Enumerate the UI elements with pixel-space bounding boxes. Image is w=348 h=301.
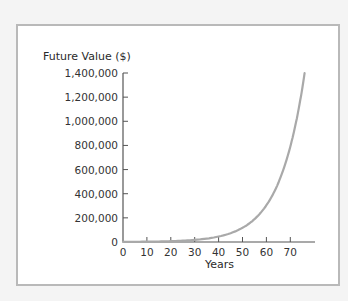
x-tick-label: 70: [284, 246, 297, 258]
x-tick-label: 0: [120, 246, 127, 258]
y-tick-label: 0: [111, 236, 118, 248]
x-tick-label: 30: [188, 246, 201, 258]
y-tick-label: 600,000: [75, 164, 118, 176]
y-tick-label: 1,200,000: [65, 91, 118, 103]
x-tick-label: 20: [164, 246, 177, 258]
x-tick-label: 40: [212, 246, 225, 258]
y-tick-label: 1,000,000: [65, 115, 118, 127]
x-tick-label: 50: [236, 246, 249, 258]
y-tick-label: 400,000: [75, 188, 118, 200]
x-tick-label: 60: [260, 246, 273, 258]
line-chart: 0200,000400,000600,000800,0001,000,0001,…: [0, 0, 348, 301]
x-tick-label: 10: [140, 246, 153, 258]
y-tick-label: 200,000: [75, 212, 118, 224]
y-tick-label: 800,000: [75, 139, 118, 151]
future-value-line: [123, 73, 305, 242]
y-tick-label: 1,400,000: [65, 67, 118, 79]
